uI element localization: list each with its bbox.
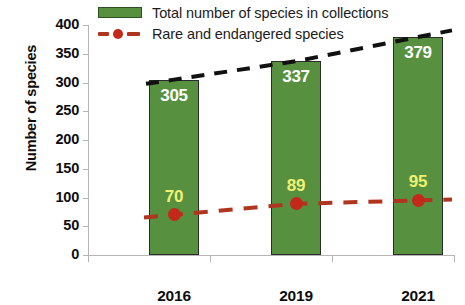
bar-value-label-2019: 337 (271, 67, 321, 87)
data-point-2016[interactable] (168, 208, 181, 221)
y-tick-mark (83, 198, 89, 199)
x-tick-mark (332, 255, 333, 262)
y-tick-mark (83, 25, 89, 26)
y-tick-label: 250 (35, 102, 79, 118)
x-tick-label-2019: 2019 (251, 287, 341, 305)
y-tick-label: 0 (35, 246, 79, 262)
y-tick-label: 400 (35, 16, 79, 32)
x-tick-mark (88, 255, 89, 262)
y-tick-mark (83, 54, 89, 55)
bar-value-label-2016: 305 (149, 86, 199, 106)
x-tick-label-2021: 2021 (373, 287, 463, 305)
data-point-2021[interactable] (412, 194, 425, 207)
x-tick-label-2016: 2016 (129, 287, 219, 305)
y-tick-label: 300 (35, 74, 79, 90)
y-tick-mark (83, 169, 89, 170)
bar-value-label-2021: 379 (393, 43, 443, 63)
plot-area: 4003503002502001501005002016201920213053… (88, 25, 454, 255)
y-tick-label: 100 (35, 189, 79, 205)
y-tick-label: 200 (35, 131, 79, 147)
bar-swatch-icon (98, 7, 142, 18)
y-tick-label: 350 (35, 45, 79, 61)
legend-label-total-species: Total number of species in collections (152, 5, 388, 21)
bar-2019[interactable] (271, 61, 321, 255)
y-tick-mark (83, 226, 89, 227)
x-tick-mark (210, 255, 211, 262)
y-tick-label: 50 (35, 217, 79, 233)
data-point-2019[interactable] (290, 197, 303, 210)
y-tick-mark (83, 83, 89, 84)
y-tick-mark (83, 111, 89, 112)
y-tick-mark (83, 140, 89, 141)
y-tick-label: 150 (35, 160, 79, 176)
x-tick-mark (454, 255, 455, 262)
point-value-label-2019: 89 (271, 176, 321, 196)
bar-2021[interactable] (393, 37, 443, 255)
legend-item-total-species[interactable]: Total number of species in collections (98, 2, 458, 23)
bar-2016[interactable] (149, 80, 199, 255)
x-axis-line (88, 255, 454, 256)
point-value-label-2016: 70 (149, 187, 199, 207)
point-value-label-2021: 95 (393, 172, 443, 192)
